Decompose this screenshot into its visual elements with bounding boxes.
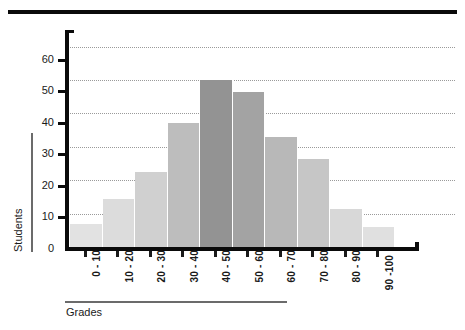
y-axis-title: Students <box>12 209 24 252</box>
bar-group <box>70 30 395 247</box>
bar-0-10 <box>70 224 103 247</box>
y-axis-top-cap <box>65 30 74 33</box>
x-axis-title: Grades <box>66 306 102 319</box>
y-tick-mark-20 <box>58 185 66 188</box>
x-tick-mark-0 <box>84 251 87 257</box>
x-axis-title-rule <box>65 301 287 303</box>
bar-40-50 <box>200 80 233 247</box>
x-tick-label-1: 10 - 20 <box>124 250 136 298</box>
bar-20-30 <box>135 172 168 247</box>
x-axis-end-cap <box>415 242 419 251</box>
y-tick-mark-30 <box>58 153 66 156</box>
y-tick-label-40: 40 <box>28 117 54 128</box>
x-tick-label-3: 30 - 40 <box>189 250 201 298</box>
x-tick-mark-9 <box>376 251 379 257</box>
x-tick-mark-2 <box>149 251 152 257</box>
bar-30-40 <box>168 123 201 247</box>
y-tick-label-50-wrap: 50 <box>28 85 54 96</box>
y-axis-title-rule <box>31 133 33 252</box>
x-tick-label-4: 40 - 50 <box>221 250 233 298</box>
x-tick-mark-8 <box>344 251 347 257</box>
bar-10-20 <box>103 199 136 247</box>
y-tick-label-40-wrap: 40 <box>28 117 54 128</box>
x-tick-label-0: 0 - 10 <box>91 250 103 298</box>
x-tick-mark-3 <box>181 251 184 257</box>
x-tick-mark-6 <box>279 251 282 257</box>
x-tick-label-9: 90 -100 <box>384 255 396 303</box>
x-tick-label-6: 60 - 70 <box>286 250 298 298</box>
y-tick-mark-60 <box>58 59 66 62</box>
y-tick-mark-50 <box>58 90 66 93</box>
bar-50-60 <box>233 92 266 247</box>
x-tick-mark-1 <box>116 251 119 257</box>
x-tick-mark-7 <box>311 251 314 257</box>
x-tick-label-2: 20 - 30 <box>156 250 168 298</box>
bar-90-100 <box>363 227 396 247</box>
x-tick-mark-5 <box>246 251 249 257</box>
y-tick-label-60-wrap: 60 <box>28 54 54 65</box>
y-tick-mark-40 <box>58 122 66 125</box>
x-tick-label-7: 70 - 80 <box>319 250 331 298</box>
bar-80-90 <box>330 209 363 247</box>
y-tick-label-60: 60 <box>28 54 54 65</box>
x-tick-label-5: 50 - 60 <box>254 250 266 298</box>
x-tick-label-8: 80 - 90 <box>351 250 363 298</box>
x-tick-mark-4 <box>214 251 217 257</box>
bar-70-80 <box>298 159 331 247</box>
y-tick-mark-10 <box>58 216 66 219</box>
bar-60-70 <box>265 137 298 247</box>
y-tick-label-50: 50 <box>28 85 54 96</box>
histogram-chart: 60 50 40 30 20 10 0 0 - 10 10 - 20 20 - … <box>0 0 465 330</box>
